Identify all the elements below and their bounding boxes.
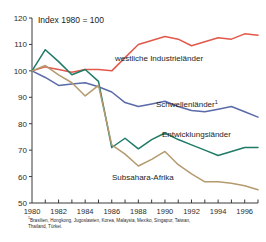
x-axis-label: 1984 (77, 207, 94, 216)
y-axis-label: 120 (14, 14, 28, 23)
x-axis-label: 1994 (210, 207, 227, 216)
x-axis-label: 1986 (103, 207, 120, 216)
x-axis-label: 1996 (236, 207, 253, 216)
series-annotation-industrie: westliche Industrieländer (114, 54, 203, 63)
x-axis-label: 1990 (157, 207, 174, 216)
series-annotation-subsahara: Subsahara-Afrika (112, 173, 174, 182)
y-axis-label: 80 (18, 120, 27, 129)
x-axis-label: 1980 (24, 207, 41, 216)
series-annotation-entwicklung: Entwicklungsländer (162, 130, 231, 139)
x-axis-label: 1982 (50, 207, 67, 216)
series-line-schwellenl-nder (32, 71, 258, 117)
footnote-text: Brasilien, Hongkong, Jugoslawien, Korea,… (28, 218, 190, 230)
chart-footnote: 1Brasilien, Hongkong, Jugoslawien, Korea… (28, 216, 208, 231)
chart-subtitle: Index 1980 = 100 (38, 15, 104, 25)
y-axis-label: 110 (14, 40, 27, 49)
y-axis-label: 90 (18, 93, 27, 102)
chart-container: 1201101009080706050198019821984198619881… (0, 0, 266, 242)
series-line-entwicklungsl-nder (32, 50, 258, 156)
line-chart: 1201101009080706050198019821984198619881… (0, 0, 266, 242)
x-axis-label: 1992 (183, 207, 200, 216)
series-annotation-text: westliche Industrieländer (114, 54, 203, 63)
y-axis-label: 60 (18, 173, 27, 182)
x-axis-label: 1988 (130, 207, 147, 216)
series-annotation-text: Subsahara-Afrika (112, 173, 174, 182)
series-annotation-schwellen: Schwellenländer1 (156, 99, 218, 109)
series-annotation-text: Entwicklungsländer (162, 130, 231, 139)
y-axis-label: 100 (14, 67, 28, 76)
series-annotation-text: Schwellenländer (156, 100, 215, 109)
y-axis-label: 70 (18, 146, 27, 155)
series-annotation-footnote-marker: 1 (215, 99, 218, 105)
